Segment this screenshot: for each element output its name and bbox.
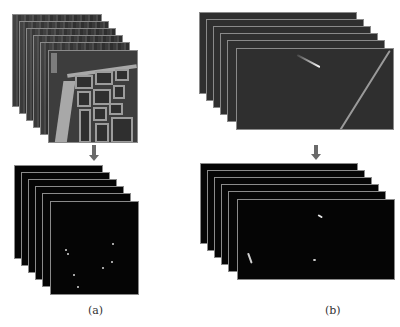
detection-dot xyxy=(313,259,316,261)
down-arrow-icon xyxy=(92,145,96,156)
panel-a-label: (a) xyxy=(88,304,103,317)
detection-dot xyxy=(102,267,104,269)
detection-dot xyxy=(73,274,75,276)
input-frame-front xyxy=(236,48,394,130)
output-frame-front xyxy=(50,201,139,295)
detection-dot xyxy=(65,249,67,251)
detection-dot xyxy=(111,261,113,263)
detection-dot xyxy=(67,253,69,255)
detection-dot xyxy=(112,243,114,245)
input-frame-front xyxy=(48,50,138,143)
output-frame-front xyxy=(237,199,395,280)
panel-b-label: (b) xyxy=(325,304,341,317)
detection-dot xyxy=(77,286,79,288)
down-arrow-icon xyxy=(314,145,318,155)
